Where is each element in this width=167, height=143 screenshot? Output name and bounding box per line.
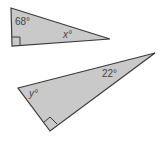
triangle-2-shape: [18, 53, 155, 131]
triangle-2: 22° y°: [18, 53, 155, 131]
angle-label-22: 22°: [102, 68, 117, 79]
triangle-1-shape: [11, 8, 110, 46]
angle-label-y: y°: [28, 88, 38, 99]
triangle-1: 68° x°: [11, 8, 110, 46]
angle-label-68: 68°: [15, 16, 30, 27]
angle-label-x: x°: [62, 29, 72, 40]
triangles-diagram: 68° x° 22° y°: [0, 0, 167, 143]
